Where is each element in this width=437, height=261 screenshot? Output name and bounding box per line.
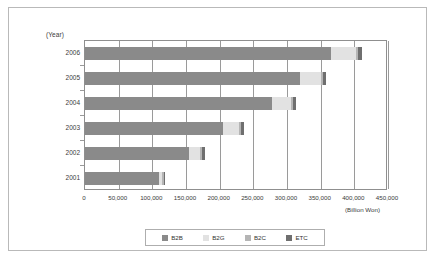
bar-segment-etc[interactable] <box>323 72 326 85</box>
legend-swatch-icon <box>203 235 209 241</box>
plot-area <box>84 40 387 190</box>
y-axis-tick-mark <box>80 140 84 141</box>
x-axis-tick-label: 0 <box>82 194 85 201</box>
bar-segment-etc[interactable] <box>358 47 362 60</box>
x-axis-unit-caption: (Billion Won) <box>345 206 380 213</box>
bar-segment-etc[interactable] <box>241 122 244 135</box>
y-axis-tick-mark <box>80 90 84 91</box>
bar-segment-b2b[interactable] <box>85 172 159 185</box>
y-axis-tick-mark <box>80 165 84 166</box>
bar-segment-b2g[interactable] <box>272 97 291 110</box>
bar-segment-b2g[interactable] <box>331 47 357 60</box>
y-axis-tick-label: 2001 <box>66 174 80 181</box>
bar-row[interactable] <box>85 97 296 110</box>
bar-row[interactable] <box>85 147 205 160</box>
y-axis-labels: 200620052004200320022001 <box>46 40 80 190</box>
x-axis-tick-label: 200,000 <box>207 194 229 201</box>
legend-label: B2B <box>171 234 183 241</box>
x-axis-tick-label: 300,000 <box>275 194 297 201</box>
bar-segment-b2b[interactable] <box>85 147 189 160</box>
y-axis-caption: (Year) <box>46 31 64 38</box>
legend-item-etc[interactable]: ETC <box>286 234 307 241</box>
x-axis-tick-label: 250,000 <box>241 194 263 201</box>
y-axis-tick-label: 2005 <box>66 74 80 81</box>
y-axis-tick-label: 2002 <box>66 149 80 156</box>
y-axis-tick-label: 2003 <box>66 124 80 131</box>
legend-swatch-icon <box>162 235 168 241</box>
bar-segment-etc[interactable] <box>164 172 165 185</box>
bar-segment-b2b[interactable] <box>85 97 272 110</box>
legend-swatch-icon <box>286 235 292 241</box>
bar-segment-b2g[interactable] <box>189 147 200 160</box>
bar-rows <box>85 41 386 189</box>
legend-item-b2g[interactable]: B2G <box>203 234 224 241</box>
bar-segment-b2b[interactable] <box>85 122 223 135</box>
legend-item-b2b[interactable]: B2B <box>162 234 183 241</box>
y-axis-tick-mark <box>80 115 84 116</box>
legend-swatch-icon <box>245 235 251 241</box>
x-axis-tick-label: 50,000 <box>108 194 127 201</box>
x-axis-tick-label: 450,000 <box>376 194 398 201</box>
x-axis-tick-label: 100,000 <box>140 194 162 201</box>
bar-row[interactable] <box>85 172 165 185</box>
legend-label: ETC <box>295 234 307 241</box>
y-axis-tick-mark <box>80 65 84 66</box>
bar-row[interactable] <box>85 72 326 85</box>
legend-label: B2C <box>254 234 266 241</box>
bar-segment-b2g[interactable] <box>300 72 320 85</box>
x-axis-tick-label: 400,000 <box>342 194 364 201</box>
legend-label: B2G <box>212 234 224 241</box>
y-axis-tick-label: 2006 <box>66 49 80 56</box>
x-axis-tick-label: 150,000 <box>174 194 196 201</box>
bar-segment-etc[interactable] <box>293 97 296 110</box>
bar-segment-b2b[interactable] <box>85 72 300 85</box>
chart-figure-frame: (Year) 200620052004200320022001 050,0001… <box>8 7 427 251</box>
x-axis-labels: 050,000100,000150,000200,000250,000300,0… <box>9 194 437 206</box>
x-axis-tick-label: 350,000 <box>308 194 330 201</box>
bar-segment-etc[interactable] <box>202 147 205 160</box>
y-axis-tick-label: 2004 <box>66 99 80 106</box>
bar-row[interactable] <box>85 122 244 135</box>
bar-segment-b2g[interactable] <box>223 122 239 135</box>
chart-legend: B2BB2GB2CETC <box>145 229 325 246</box>
bar-segment-b2b[interactable] <box>85 47 331 60</box>
bar-row[interactable] <box>85 47 362 60</box>
legend-item-b2c[interactable]: B2C <box>245 234 266 241</box>
gridline <box>388 41 389 189</box>
